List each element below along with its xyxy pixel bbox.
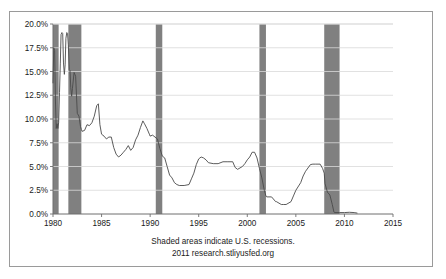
y-axis-tick-label: 10.0% [25, 115, 48, 124]
x-axis-tick-label: 1985 [92, 219, 111, 228]
y-axis-tick-label: 0.0% [29, 210, 48, 219]
y-axis-tick-label: 20.0% [25, 20, 48, 29]
x-axis-tick-label: 1980 [44, 219, 63, 228]
x-axis-tick-label: 2000 [238, 219, 257, 228]
x-axis-tick-labels: 19801985199019952000200520102015 [44, 219, 403, 228]
chart-figure: 0.0%2.5%5.0%7.5%10.0%12.5%15.0%17.5%20.0… [9, 11, 433, 267]
x-axis-tick-label: 2015 [384, 219, 403, 228]
y-axis-tick-label: 7.5% [29, 139, 48, 148]
y-axis-tick-label: 2.5% [29, 186, 48, 195]
caption-line-1: Shaded areas indicate U.S. recessions. [151, 237, 294, 246]
x-axis-tick-label: 2010 [335, 219, 354, 228]
y-axis-tick-label: 12.5% [25, 91, 48, 100]
y-axis-tick-label: 5.0% [29, 163, 48, 172]
y-axis-tick-labels: 0.0%2.5%5.0%7.5%10.0%12.5%15.0%17.5%20.0… [25, 20, 48, 219]
y-axis-tick-label: 15.0% [25, 68, 48, 77]
fed-funds-rate-chart: 0.0%2.5%5.0%7.5%10.0%12.5%15.0%17.5%20.0… [10, 12, 434, 268]
x-axis-tick-label: 1995 [190, 219, 209, 228]
y-axis-tick-label: 17.5% [25, 44, 48, 53]
x-axis-tick-label: 1990 [141, 219, 160, 228]
chart-plot-area: 0.0%2.5%5.0%7.5%10.0%12.5%15.0%17.5%20.0… [10, 12, 434, 268]
x-axis-tick-label: 2005 [287, 219, 306, 228]
caption-line-2: 2011 research.stliyusfed.org [172, 249, 275, 258]
